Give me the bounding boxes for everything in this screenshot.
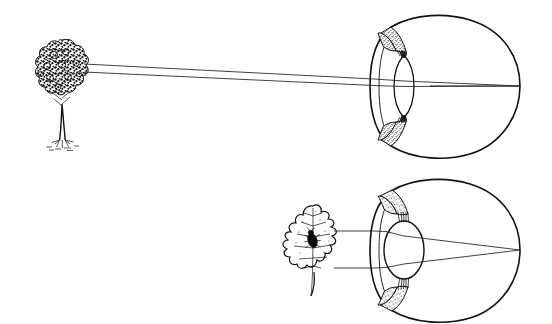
light-rays-near [334,231,520,268]
ciliary-body-distant-lower [378,121,406,146]
panel-near-vision [283,179,520,322]
ciliary-body-distant-upper [378,27,406,52]
lens-near-round [384,221,424,279]
light-rays-distant [84,64,520,87]
zonule-fibers-near [398,212,409,289]
object-pine-tree [36,39,89,150]
ciliary-body-near-lower [378,286,408,311]
ciliary-body-near-upper [378,190,408,215]
beetle-icon [304,227,321,248]
eye-accommodation-figure: Eye accommodation diagram Two cross-sect… [0,0,552,324]
figure-canvas [0,0,552,324]
object-oak-leaf [283,205,336,296]
panel-distant-vision [36,15,520,158]
